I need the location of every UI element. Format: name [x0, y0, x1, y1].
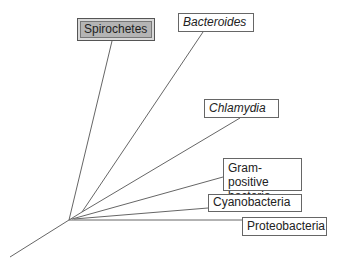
taxon-label: Proteobacteria: [247, 219, 325, 233]
taxon-proteobacteria: Proteobacteria: [242, 217, 327, 236]
taxon-chlamydia: Chlamydia: [204, 99, 279, 118]
root-tail-branch: [10, 220, 69, 257]
taxon-spirochetes: Spirochetes: [77, 18, 155, 41]
branch-bacteroides: [82, 32, 203, 212]
taxon-label: Chlamydia: [209, 101, 266, 115]
taxon-gram-positive-bacteria: Gram-positive bacteria: [223, 158, 302, 191]
taxon-label: Bacteroides: [183, 15, 246, 29]
taxon-bacteroides: Bacteroides: [178, 13, 254, 32]
taxon-label-line-1: Gram-positive: [228, 161, 297, 189]
branch-cyanobacteria: [74, 208, 208, 219]
taxon-cyanobacteria: Cyanobacteria: [208, 194, 302, 212]
branch-spirochetes: [69, 41, 112, 220]
taxon-label: Spirochetes: [84, 22, 147, 36]
taxon-label: Cyanobacteria: [213, 195, 290, 209]
